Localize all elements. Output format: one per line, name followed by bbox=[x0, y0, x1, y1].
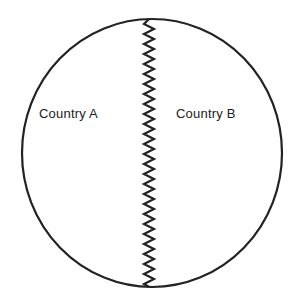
country-b-label: Country B bbox=[176, 106, 236, 121]
country-a-label: Country A bbox=[39, 106, 98, 121]
border-diagram bbox=[0, 0, 298, 307]
zigzag-border-line bbox=[144, 19, 154, 287]
